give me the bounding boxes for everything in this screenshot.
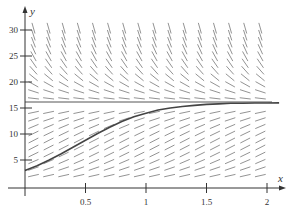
slope-segment	[179, 98, 190, 99]
slope-segment	[255, 145, 265, 150]
slope-segment	[255, 90, 265, 93]
slope-segment	[105, 74, 113, 81]
slope-segment	[119, 167, 129, 171]
slope-segment	[104, 138, 114, 143]
slope-segment	[256, 74, 264, 81]
slope-segment	[43, 98, 54, 99]
slope-segment	[210, 118, 220, 121]
slope-segment	[28, 98, 39, 99]
y-tick-label: 5	[14, 155, 19, 165]
slope-segment	[210, 124, 220, 128]
slope-segment	[195, 138, 205, 143]
slope-segment	[89, 111, 100, 113]
slope-segment	[89, 174, 100, 176]
slope-segment	[149, 118, 159, 121]
slope-segment	[75, 74, 83, 81]
slope-segment	[255, 167, 265, 171]
slope-segment	[164, 167, 174, 171]
slope-segment	[74, 152, 84, 157]
slope-segment	[28, 111, 39, 113]
slope-segment	[74, 82, 84, 87]
y-ticks: 51015202530	[9, 25, 32, 165]
slope-segment	[195, 145, 205, 150]
slope-segment	[149, 159, 159, 163]
slope-segment	[58, 98, 69, 99]
slope-segment	[119, 138, 129, 143]
slope-segment	[29, 152, 39, 157]
slope-segment	[255, 98, 266, 99]
slope-segment	[28, 124, 38, 128]
slope-segment	[28, 90, 38, 93]
slope-segment	[89, 145, 99, 150]
y-tick-label: 15	[9, 103, 19, 113]
slope-segment	[43, 167, 53, 171]
x-tick-label: 0.5	[80, 197, 92, 207]
y-tick-label: 30	[9, 25, 19, 35]
slope-segment	[164, 111, 175, 113]
slope-segment	[225, 90, 235, 93]
slope-segment	[44, 145, 54, 150]
slope-segment	[58, 118, 68, 121]
slope-segment	[89, 159, 99, 163]
slope-segment	[43, 174, 54, 176]
slope-segment	[211, 74, 219, 81]
slope-segment	[104, 111, 115, 113]
slope-segment	[256, 82, 266, 87]
slope-field-chart: x y 0.511.52 51015202530	[0, 0, 290, 213]
slope-segment	[225, 111, 236, 113]
slope-segment	[104, 174, 115, 176]
slope-segment	[210, 131, 220, 136]
slope-segment	[150, 74, 158, 81]
slope-segment	[210, 167, 220, 171]
slope-segment	[104, 98, 115, 99]
slope-segment	[44, 131, 54, 136]
slope-segment	[225, 152, 235, 157]
slope-segment	[44, 124, 54, 128]
slope-segment	[240, 131, 250, 136]
slope-segment	[180, 152, 190, 157]
slope-segment	[119, 111, 130, 113]
slope-segment	[150, 131, 160, 136]
slope-segment	[134, 111, 145, 113]
y-tick-label: 10	[9, 129, 19, 139]
slope-segment	[240, 98, 251, 99]
slope-segment	[150, 145, 160, 150]
slope-segment	[165, 74, 173, 81]
slope-segment	[59, 82, 69, 87]
slope-segment	[119, 90, 129, 93]
slope-segment	[104, 145, 114, 150]
x-tick-label: 1.5	[201, 197, 213, 207]
y-tick-label: 20	[9, 77, 19, 87]
x-tick-label: 1	[144, 197, 149, 207]
slope-segment	[255, 111, 266, 113]
slope-segment	[255, 131, 265, 136]
slope-segment	[194, 111, 205, 113]
slope-segment	[28, 118, 38, 121]
slope-segment	[74, 131, 84, 136]
slope-segment	[210, 159, 220, 163]
slope-segment	[210, 152, 220, 157]
slope-segment	[195, 124, 205, 128]
slope-segment	[29, 131, 39, 136]
slope-segment	[149, 98, 160, 99]
slope-segment	[89, 90, 99, 93]
slope-segment	[44, 82, 54, 87]
slope-segment	[119, 145, 129, 150]
slope-segment	[89, 138, 99, 143]
x-axis-label: x	[277, 172, 283, 184]
slope-segment	[210, 98, 221, 99]
slope-segment	[195, 82, 205, 87]
slope-segment	[240, 174, 251, 176]
slope-segment	[134, 118, 144, 121]
slope-segment	[194, 98, 205, 99]
slope-segment	[43, 118, 53, 121]
slope-segment	[165, 131, 175, 136]
slope-segment	[225, 124, 235, 128]
slope-segment	[29, 145, 39, 150]
y-axis-label: y	[29, 5, 35, 17]
slope-segment	[135, 74, 143, 81]
slope-segment	[210, 90, 220, 93]
slope-segment	[119, 152, 129, 157]
slope-segment	[104, 167, 114, 171]
slope-segment	[210, 145, 220, 150]
